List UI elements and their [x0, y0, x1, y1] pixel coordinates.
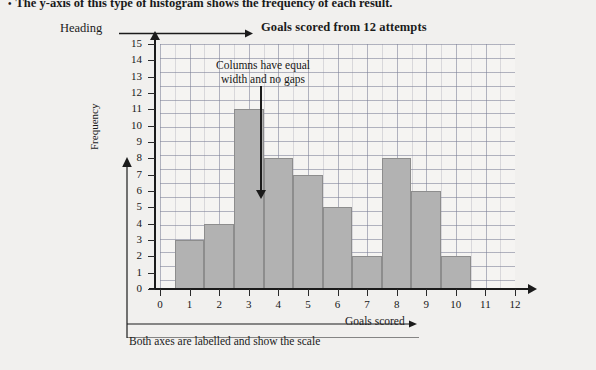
- y-axis-tick-label: 9: [122, 136, 142, 147]
- x-axis-tick-label: 8: [387, 298, 407, 310]
- x-axis-tick: [515, 289, 516, 296]
- x-axis-tick: [485, 289, 486, 296]
- y-axis-tick: [148, 273, 155, 274]
- y-axis-tick: [148, 142, 155, 143]
- x-axis-tick: [426, 289, 427, 296]
- x-axis-tick: [338, 289, 339, 296]
- x-axis-tick-label: 5: [298, 298, 318, 310]
- y-axis-tick: [148, 126, 155, 127]
- y-axis-tick-label: 11: [122, 103, 142, 114]
- y-axis-tick: [148, 175, 155, 176]
- y-axis-tick-label: 13: [122, 71, 142, 82]
- axes-caption: Both axes are labelled and show the scal…: [129, 335, 320, 347]
- x-axis-tick-label: 11: [475, 298, 495, 310]
- y-axis-tick-label: 6: [122, 185, 142, 196]
- y-axis-tick-label: 14: [122, 54, 142, 65]
- y-axis-tick-label: 3: [122, 234, 142, 245]
- y-axis-tick-label: 10: [122, 120, 142, 131]
- y-axis-tick-label: 15: [122, 38, 142, 49]
- x-axis-tick-label: 1: [180, 298, 200, 310]
- y-axis-arrow-icon: [150, 31, 160, 40]
- y-axis-tick: [148, 191, 155, 192]
- y-axis-tick-label: 12: [122, 87, 142, 98]
- histogram-plot: 0123456789101112131415 0123456789101112 …: [0, 0, 596, 370]
- x-axis-tick-label: 4: [268, 298, 288, 310]
- y-axis-title: Frequency: [88, 104, 100, 150]
- histogram-bar: [382, 158, 412, 289]
- x-axis-line: [149, 288, 529, 290]
- x-axis-tick-label: 2: [209, 298, 229, 310]
- y-axis-tick: [148, 60, 155, 61]
- x-axis-tick: [397, 289, 398, 296]
- x-axis-tick: [278, 289, 279, 296]
- histogram-bar: [323, 207, 353, 289]
- x-axis-tick-label: 7: [357, 298, 377, 310]
- y-axis-tick-label: 7: [122, 169, 142, 180]
- x-axis-tick-label: 0: [150, 298, 170, 310]
- x-axis-tick: [190, 289, 191, 296]
- y-axis-tick: [148, 289, 155, 290]
- x-axis-arrow-icon: [528, 284, 537, 294]
- histogram-bar: [441, 256, 471, 289]
- x-axis-tick: [367, 289, 368, 296]
- histogram-bar: [204, 224, 234, 289]
- x-axis-tick: [160, 289, 161, 296]
- y-axis-tick: [148, 207, 155, 208]
- y-axis-tick-label: 4: [122, 218, 142, 229]
- y-axis-tick-label: 0: [122, 283, 142, 294]
- histogram-bar: [293, 175, 323, 289]
- x-axis-tick: [219, 289, 220, 296]
- histogram-bar: [352, 256, 382, 289]
- histogram-bar: [411, 191, 441, 289]
- y-axis-tick-label: 5: [122, 201, 142, 212]
- y-axis-tick: [148, 44, 155, 45]
- x-axis-tick-label: 9: [416, 298, 436, 310]
- histogram-bar: [264, 158, 294, 289]
- y-axis-tick-label: 8: [122, 152, 142, 163]
- y-axis-tick: [148, 109, 155, 110]
- y-axis-tick-label: 2: [122, 250, 142, 261]
- x-axis-tick-label: 12: [505, 298, 525, 310]
- x-axis-tick-label: 6: [328, 298, 348, 310]
- y-axis-tick: [148, 240, 155, 241]
- columns-note-arrow-icon: [256, 190, 266, 199]
- columns-note-line-1: Columns have equal: [196, 58, 330, 72]
- columns-note: Columns have equal width and no gaps: [196, 58, 330, 86]
- columns-note-arrow-line: [260, 86, 262, 193]
- y-axis-tick: [148, 77, 155, 78]
- x-axis-tick-label: 3: [239, 298, 259, 310]
- x-axis-tick: [456, 289, 457, 296]
- y-axis-tick: [148, 93, 155, 94]
- y-axis-tick: [148, 224, 155, 225]
- x-axis-tick: [249, 289, 250, 296]
- y-axis-tick-label: 1: [122, 267, 142, 278]
- y-axis-tick: [148, 256, 155, 257]
- x-axis-tick-label: 10: [446, 298, 466, 310]
- x-axis-tick: [308, 289, 309, 296]
- columns-note-line-2: width and no gaps: [196, 72, 330, 86]
- y-axis-tick: [148, 158, 155, 159]
- histogram-bar: [175, 240, 205, 289]
- caption-arrow-icon: [127, 320, 417, 334]
